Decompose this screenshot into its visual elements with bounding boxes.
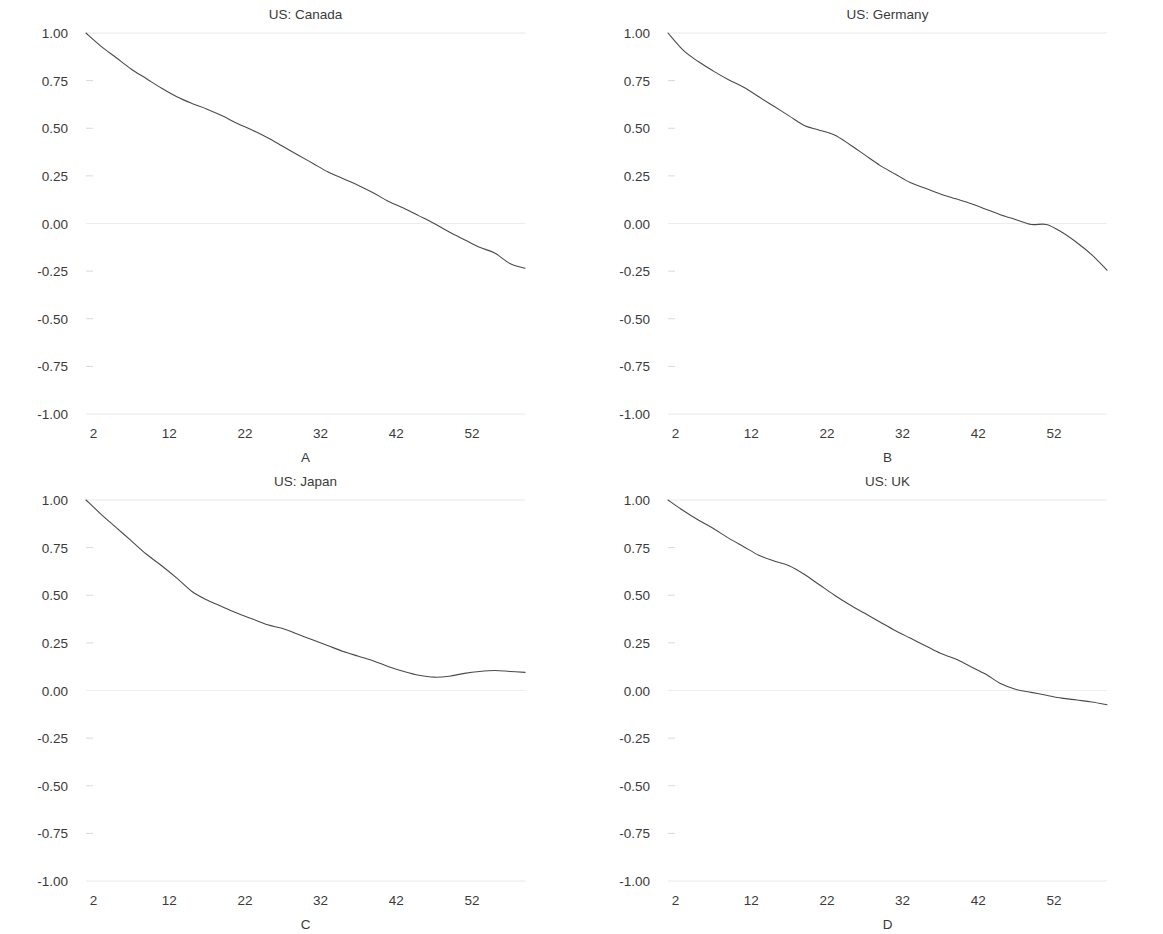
x-tick-label: 52: [465, 426, 480, 441]
y-tick-label: -0.75: [619, 359, 650, 374]
x-tick-label: 12: [744, 893, 759, 908]
x-tick-label: 32: [313, 426, 328, 441]
x-tick-label: 42: [971, 426, 986, 441]
x-tick-label: 22: [237, 426, 252, 441]
x-tick-label: 2: [672, 426, 680, 441]
x-tick-label: 32: [895, 893, 910, 908]
y-tick-label: 0.50: [42, 121, 68, 136]
panel-label: B: [883, 450, 892, 465]
chart-a: US: Canada1.000.750.500.250.00-0.25-0.50…: [0, 0, 581, 467]
panel-us-germany: US: Germany1.000.750.500.250.00-0.25-0.5…: [582, 0, 1163, 467]
y-tick-label: 0.75: [624, 74, 650, 89]
y-tick-label: -0.50: [37, 312, 68, 327]
chart-c: US: Japan1.000.750.500.250.00-0.25-0.50-…: [0, 467, 581, 934]
y-tick-label: 0.25: [42, 169, 68, 184]
x-tick-label: 42: [389, 426, 404, 441]
x-tick-label: 32: [895, 426, 910, 441]
y-tick-label: -1.00: [37, 407, 68, 422]
x-tick-label: 2: [90, 426, 98, 441]
y-tick-label: -1.00: [619, 407, 650, 422]
x-tick-label: 12: [162, 893, 177, 908]
chart-title: US: Germany: [847, 7, 929, 22]
y-tick-label: 0.00: [42, 684, 68, 699]
y-tick-label: 0.50: [624, 121, 650, 136]
chart-title: US: Canada: [269, 7, 343, 22]
y-tick-label: 0.25: [624, 636, 650, 651]
y-tick-label: 0.25: [42, 636, 68, 651]
x-tick-label: 42: [971, 893, 986, 908]
y-tick-label: 0.75: [42, 74, 68, 89]
panel-label: A: [301, 450, 310, 465]
y-tick-label: -0.50: [619, 779, 650, 794]
y-tick-label: -0.50: [619, 312, 650, 327]
y-tick-label: 1.00: [42, 493, 68, 508]
x-tick-label: 22: [819, 426, 834, 441]
y-tick-label: 0.25: [624, 169, 650, 184]
x-tick-label: 22: [237, 893, 252, 908]
y-tick-label: -0.75: [619, 826, 650, 841]
panel-us-uk: US: UK1.000.750.500.250.00-0.25-0.50-0.7…: [582, 467, 1163, 934]
chart-title: US: Japan: [274, 474, 337, 489]
panel-us-canada: US: Canada1.000.750.500.250.00-0.25-0.50…: [0, 0, 581, 467]
chart-b: US: Germany1.000.750.500.250.00-0.25-0.5…: [582, 0, 1163, 467]
series-line: [668, 500, 1107, 705]
series-line: [86, 500, 525, 677]
x-tick-label: 52: [465, 893, 480, 908]
y-tick-label: 0.75: [42, 541, 68, 556]
x-tick-label: 42: [389, 893, 404, 908]
y-tick-label: -0.25: [619, 264, 650, 279]
x-tick-label: 52: [1047, 893, 1062, 908]
y-tick-label: 1.00: [624, 493, 650, 508]
x-tick-label: 12: [162, 426, 177, 441]
y-tick-label: -0.75: [37, 826, 68, 841]
series-line: [86, 33, 525, 268]
series-line: [668, 33, 1107, 270]
y-tick-label: -0.50: [37, 779, 68, 794]
panel-label: C: [301, 917, 311, 932]
y-tick-label: 1.00: [42, 26, 68, 41]
y-tick-label: -1.00: [619, 874, 650, 889]
x-tick-label: 12: [744, 426, 759, 441]
y-tick-label: -0.75: [37, 359, 68, 374]
y-tick-label: 0.00: [42, 217, 68, 232]
y-tick-label: 0.50: [624, 588, 650, 603]
x-tick-label: 32: [313, 893, 328, 908]
x-tick-label: 2: [90, 893, 98, 908]
y-tick-label: 1.00: [624, 26, 650, 41]
y-tick-label: -0.25: [619, 731, 650, 746]
y-tick-label: -0.25: [37, 731, 68, 746]
chart-d: US: UK1.000.750.500.250.00-0.25-0.50-0.7…: [582, 467, 1163, 934]
x-tick-label: 2: [672, 893, 680, 908]
y-tick-label: 0.50: [42, 588, 68, 603]
figure-panel-grid: US: Canada1.000.750.500.250.00-0.25-0.50…: [0, 0, 1163, 934]
y-tick-label: 0.00: [624, 217, 650, 232]
panel-label: D: [883, 917, 893, 932]
y-tick-label: -0.25: [37, 264, 68, 279]
x-tick-label: 52: [1047, 426, 1062, 441]
chart-title: US: UK: [865, 474, 910, 489]
y-tick-label: 0.00: [624, 684, 650, 699]
panel-us-japan: US: Japan1.000.750.500.250.00-0.25-0.50-…: [0, 467, 581, 934]
x-tick-label: 22: [819, 893, 834, 908]
y-tick-label: -1.00: [37, 874, 68, 889]
y-tick-label: 0.75: [624, 541, 650, 556]
